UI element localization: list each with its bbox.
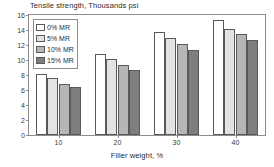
x-tick-label: 30 [173,139,181,146]
legend-swatch-icon [36,35,45,42]
bar [247,40,258,135]
y-tick-mark [26,90,28,91]
x-tick-mark [236,136,237,138]
legend-label: 10% MR [47,46,74,53]
y-tick-mark [26,30,28,31]
bar [188,50,199,135]
legend-swatch-icon [36,24,45,31]
legend-swatch-icon [36,46,45,53]
bar [154,32,165,135]
y-tick-mark [26,60,28,61]
bar [70,87,81,135]
x-tick-mark [118,136,119,138]
bar [95,54,106,135]
y-tick-label: 0 [21,132,25,139]
y-tick-mark [26,45,28,46]
bar [36,74,47,136]
bar [177,44,188,135]
x-tick-label: 10 [55,139,63,146]
bar [129,70,140,135]
bar [118,65,129,136]
bar [236,34,247,135]
legend-label: 5% MR [47,35,70,42]
legend-item: 5% MR [36,33,74,44]
y-tick-mark [26,15,28,16]
y-tick-label: 8 [21,72,25,79]
y-tick-label: 16 [17,12,25,19]
y-tick-label: 10 [17,57,25,64]
bar [106,59,117,135]
chart-legend: 0% MR5% MR10% MR15% MR [33,19,78,69]
y-tick-label: 2 [21,117,25,124]
y-tick-label: 6 [21,87,25,94]
chart-title: Tensile strength, Thousands psi [30,1,138,10]
y-tick-label: 12 [17,42,25,49]
y-tick-mark [26,75,28,76]
bar [213,20,224,135]
x-tick-label: 20 [114,139,122,146]
x-tick-mark [177,136,178,138]
y-tick-mark [26,120,28,121]
x-axis: 10203040 [28,136,266,150]
y-tick-mark [26,105,28,106]
bar [224,29,235,136]
x-axis-label: Filler weight, % [0,151,274,160]
x-tick-label: 40 [232,139,240,146]
y-axis: 0246810121416 [0,14,28,136]
y-tick-label: 4 [21,102,25,109]
legend-item: 0% MR [36,22,74,33]
legend-label: 0% MR [47,24,70,31]
legend-item: 10% MR [36,44,74,55]
bar [59,84,70,135]
bar [165,38,176,136]
bar [47,78,58,135]
bar-chart: Tensile strength, Thousands psi 02468101… [0,0,274,167]
legend-label: 15% MR [47,57,74,64]
y-tick-label: 14 [17,27,25,34]
x-tick-mark [59,136,60,138]
legend-item: 15% MR [36,55,74,66]
legend-swatch-icon [36,57,45,64]
